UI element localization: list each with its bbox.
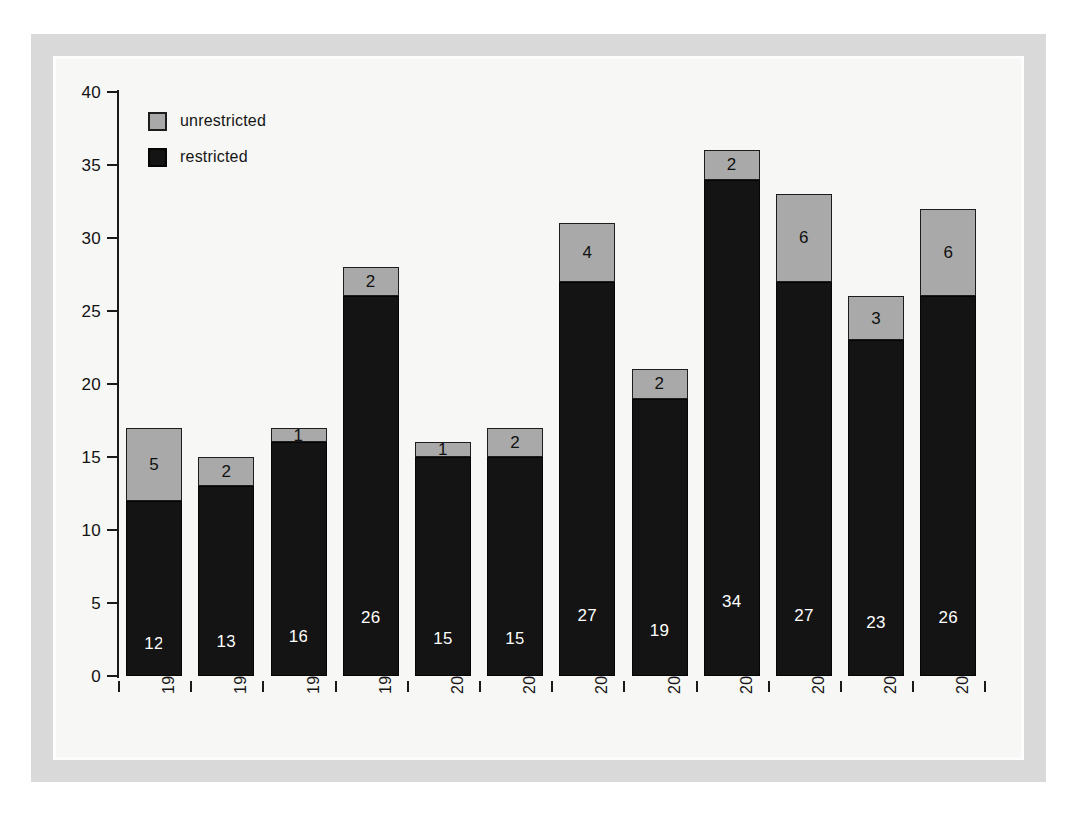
plot-background bbox=[56, 59, 1021, 757]
figure-frame bbox=[31, 34, 1046, 782]
